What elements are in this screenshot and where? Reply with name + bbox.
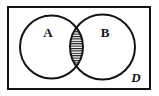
set-a-label: A [43,25,53,40]
venn-diagram-figure: A B D [0,0,159,96]
universal-set-label: D [130,70,141,85]
venn-diagram-svg: A B D [0,0,159,96]
set-b-label: B [101,25,110,40]
